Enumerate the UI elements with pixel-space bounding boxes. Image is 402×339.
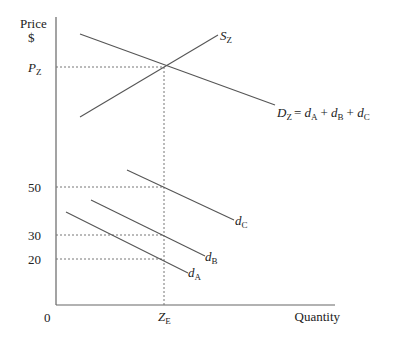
demand-a-label: dA xyxy=(188,265,202,282)
tick-50: 50 xyxy=(28,180,41,195)
guide-lines xyxy=(56,67,164,305)
tick-pz: PZ xyxy=(27,60,41,77)
tick-ze: ZE xyxy=(158,309,171,326)
tick-20: 20 xyxy=(28,252,41,267)
x-axis-label: Quantity xyxy=(295,309,341,324)
market-demand-label: DZ= dA+ dB+ dC xyxy=(276,105,370,122)
supply-curve xyxy=(80,35,218,117)
tick-30: 30 xyxy=(28,228,41,243)
demand-b-label: dB xyxy=(205,249,218,266)
demand-diagram: Price $ Quantity 0 PZ 50 30 20 ZE SZ DZ=… xyxy=(0,0,402,339)
supply-label: SZ xyxy=(220,28,232,45)
demand-curve-b xyxy=(91,200,205,256)
demand-curve-a xyxy=(66,212,188,273)
demand-curve-c xyxy=(127,170,234,220)
market-demand-curve xyxy=(80,34,275,105)
y-axis-unit: $ xyxy=(28,30,35,45)
y-axis-label: Price xyxy=(20,16,47,31)
origin-label: 0 xyxy=(44,310,51,325)
demand-c-label: dC xyxy=(235,213,248,230)
